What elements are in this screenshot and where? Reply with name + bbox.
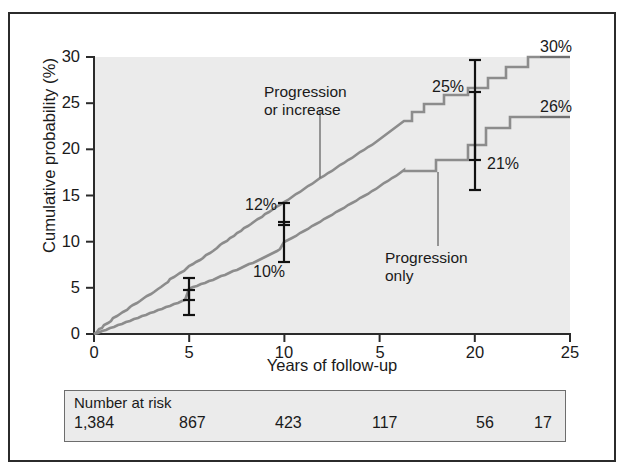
risk-value-20y: 56 (476, 414, 494, 432)
error-bar-lower-10y (278, 222, 290, 262)
y-tick-label-15: 15 (40, 187, 80, 203)
annotation-leader-lines (320, 110, 438, 246)
curve-progression-only (94, 117, 570, 334)
annotation-progression-only-line1: Progression (385, 249, 468, 267)
error-bar-lower-20y (469, 92, 481, 190)
y-tick-label-30: 30 (40, 48, 80, 64)
y-tick-label-0: 0 (40, 325, 80, 341)
risk-value-5y: 867 (179, 414, 206, 432)
risk-value-0y: 1,384 (74, 414, 114, 432)
pct-label-upper-20y: 25% (432, 78, 464, 95)
pct-label-upper-endpoint: 30% (540, 38, 572, 55)
y-tick-label-25: 25 (40, 94, 80, 110)
pct-label-lower-20y: 21% (487, 155, 519, 172)
annotation-progression-or-increase-line1: Progression (264, 83, 347, 101)
figure-container: Cumulative probability (%) 30 25 20 15 1… (0, 0, 626, 474)
pct-label-upper-10y: 12% (245, 196, 277, 213)
annotation-progression-or-increase-line2: or increase (264, 101, 341, 119)
risk-value-10y: 423 (275, 414, 302, 432)
x-tick-marks (94, 334, 570, 342)
risk-value-25y: 17 (534, 414, 552, 432)
pct-label-lower-10y: 10% (253, 263, 285, 280)
x-axis-title: Years of follow-up (94, 356, 570, 375)
y-tick-label-20: 20 (40, 140, 80, 156)
y-tick-label-5: 5 (40, 279, 80, 295)
y-tick-marks (86, 57, 94, 334)
number-at-risk-box: Number at risk 1,384 867 423 117 56 17 (64, 390, 566, 442)
y-tick-label-10: 10 (40, 233, 80, 249)
pct-label-lower-endpoint: 26% (540, 98, 572, 115)
error-bar-lower-5y (183, 290, 195, 315)
risk-value-15y: 117 (372, 414, 398, 432)
annotation-progression-only-line2: only (385, 267, 413, 285)
number-at-risk-title: Number at risk (74, 394, 172, 411)
